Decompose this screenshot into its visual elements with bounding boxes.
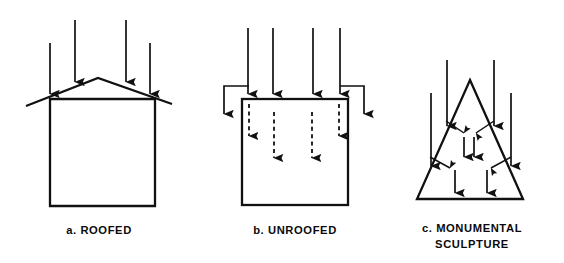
caption-monumental-sculpture-line1: c. MONUMENTAL (422, 222, 522, 234)
rainfall-deflection-diagram: a. ROOFED b. UNR (0, 0, 564, 263)
caption-monumental-sculpture-line2: SCULPTURE (435, 238, 509, 250)
unroofed-interior-infiltration-arrows (249, 104, 339, 158)
house-wall-box (50, 99, 155, 206)
sculpture-runoff-arrows (455, 137, 487, 193)
panel-roofed: a. ROOFED (26, 20, 172, 236)
caption-roofed: a. ROOFED (66, 224, 132, 236)
panel-unroofed: b. UNROOFED (224, 28, 364, 236)
unroofed-wall-box (242, 99, 348, 205)
unroofed-incident-rain-arrows (248, 28, 340, 94)
roofed-incident-rain-arrows (50, 20, 150, 94)
sculpture-triangle-outline (417, 80, 523, 199)
panel-monumental-sculpture: c. MONUMENTAL SCULPTURE (417, 60, 523, 250)
figure-root: a. ROOFED b. UNR (0, 0, 564, 263)
caption-unroofed: b. UNROOFED (253, 224, 337, 236)
sculpture-incident-rain-arrows (431, 60, 511, 166)
roofed-structure-outline (26, 78, 172, 206)
